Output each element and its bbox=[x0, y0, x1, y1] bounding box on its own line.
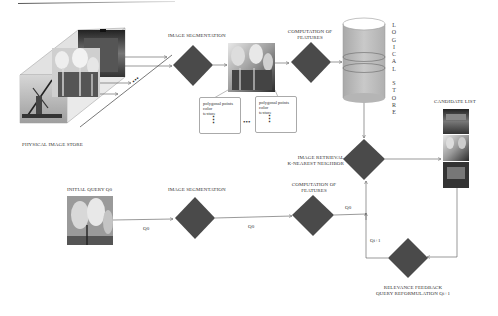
features-label-top: COMPUTATION OF FEATURES bbox=[280, 29, 340, 41]
feedback-label-line2: QUERY REFORMULATION Qi+1 bbox=[372, 291, 454, 297]
candidate-images bbox=[443, 109, 469, 188]
segmentation-label-top: IMAGE SEGMENTATION bbox=[168, 33, 226, 39]
letter: O bbox=[391, 29, 397, 36]
feature-box-1: polygonal points color texture ⋮ bbox=[199, 97, 241, 134]
physical-store-label: PHYSICAL IMAGE STORE bbox=[22, 142, 83, 148]
logical-store-cylinder bbox=[343, 18, 385, 103]
letter: L bbox=[391, 22, 397, 29]
features-label-bottom: COMPUTATION OF FEATURES bbox=[290, 182, 338, 194]
edge-label-q0-c: Q0 bbox=[345, 205, 351, 211]
retrieval-diamond bbox=[343, 139, 385, 180]
letter: O bbox=[391, 95, 397, 102]
logical-store-label: L O G I C A L S T O R E bbox=[391, 22, 397, 117]
edge-label-q0-a: Q0 bbox=[143, 226, 149, 232]
candidate-list-label: CANDIDATE LIST bbox=[434, 99, 476, 105]
diagram-canvas bbox=[0, 0, 498, 316]
letter: E bbox=[391, 109, 397, 116]
tulips-photo bbox=[52, 48, 100, 97]
feature-box-2: polygonal points color texture ⋮ bbox=[255, 96, 297, 133]
letter: C bbox=[391, 51, 397, 58]
retrieval-label-line2: K-NEAREST NEIGHBOR bbox=[286, 161, 344, 167]
segmentation-diamond-top bbox=[173, 45, 213, 86]
letter: G bbox=[391, 37, 397, 44]
feature-dots: ⋮ bbox=[259, 115, 293, 123]
letter: A bbox=[391, 58, 397, 65]
letter: L bbox=[391, 66, 397, 73]
letter: S bbox=[391, 80, 397, 87]
segmentation-label-bottom: IMAGE SEGMENTATION bbox=[168, 187, 226, 193]
feedback-diamond bbox=[388, 238, 428, 278]
letter: I bbox=[391, 44, 397, 51]
top-rule bbox=[18, 2, 175, 4]
segmented-image bbox=[228, 43, 275, 92]
features-label-bottom-line2: FEATURES bbox=[290, 188, 338, 194]
initial-query-label: INITIAL QUERY Q0 bbox=[67, 187, 112, 193]
between-boxes-dots: ••• bbox=[243, 119, 251, 125]
feedback-label: RELEVANCE FEEDBACK QUERY REFORMULATION Q… bbox=[372, 285, 454, 297]
retrieval-label: IMAGE RETRIEVAL K-NEAREST NEIGHBOR bbox=[286, 155, 344, 167]
initial-query-photo bbox=[67, 196, 113, 245]
features-diamond-top bbox=[291, 42, 331, 83]
physical-image-store bbox=[20, 28, 172, 127]
segmentation-diamond-bottom bbox=[175, 197, 215, 239]
letter: R bbox=[391, 102, 397, 109]
features-diamond-bottom bbox=[292, 195, 334, 236]
letter: T bbox=[391, 87, 397, 94]
edge-label-qi1: Qi+1 bbox=[370, 238, 381, 244]
edge-label-q0-b: Q0 bbox=[248, 224, 254, 230]
feature-dots: ⋮ bbox=[203, 116, 237, 124]
features-label-top-line2: FEATURES bbox=[280, 35, 340, 41]
